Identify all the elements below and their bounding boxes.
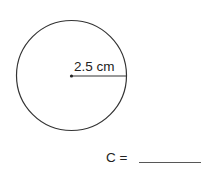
radius-label: 2.5 cm bbox=[74, 59, 115, 74]
circumference-prompt: C = bbox=[106, 150, 128, 165]
circle-diagram: 2.5 cm C = bbox=[0, 0, 201, 172]
